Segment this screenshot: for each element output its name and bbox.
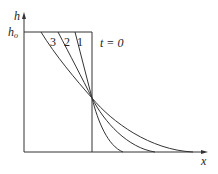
curves [41,32,193,152]
h0-label: ho [8,25,18,40]
x-axis-label: x [200,154,207,168]
axes [22,12,208,154]
curve-label-3: 3 [50,35,56,49]
curve-label-1: 1 [77,35,83,49]
diagram: h ho x 3 2 1 t = 0 [0,0,218,174]
y-axis-arrow-icon [22,12,26,19]
y-axis-label: h [14,9,20,23]
initial-step [24,32,92,152]
curve-label-2: 2 [64,35,70,49]
curve-3 [41,32,193,152]
curve-1 [75,32,123,152]
curve-2 [58,32,155,152]
initial-label: t = 0 [100,36,123,50]
